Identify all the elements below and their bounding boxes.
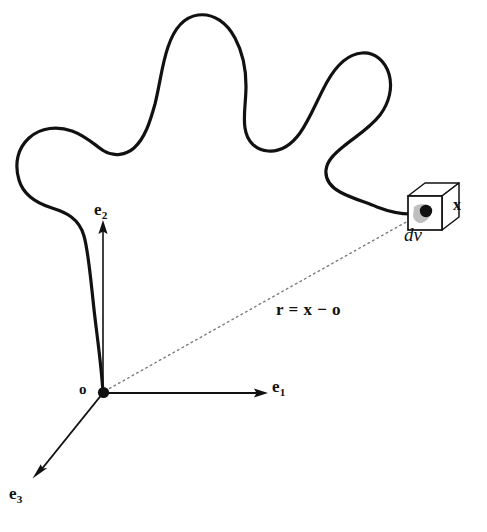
axis-label-e2: e2 (94, 201, 107, 218)
axis-label-e3-symbol: e (9, 484, 17, 503)
axis-label-e2-subscript: 2 (102, 209, 108, 221)
axis-label-e1-subscript: 1 (280, 386, 286, 398)
axis-label-e3: e3 (9, 485, 22, 502)
point-x-label: x (453, 197, 461, 213)
diagram-canvas (0, 0, 487, 532)
position-vector-figure: e1 e2 e3 o x dv r = x − o (0, 0, 487, 532)
position-vector-r-dotted-line (105, 212, 424, 391)
axis-label-e3-subscript: 3 (17, 493, 23, 505)
axis-e1 (103, 388, 268, 397)
axis-e3-shaft (41, 393, 103, 470)
material-point-x-marker (420, 205, 432, 217)
volume-element-label: dv (404, 225, 422, 244)
axis-e3-arrowhead (33, 464, 48, 478)
origin-label: o (79, 382, 87, 397)
axis-e3 (33, 393, 104, 479)
origin-point-marker (98, 387, 109, 398)
axis-label-e2-symbol: e (94, 200, 102, 219)
continuum-body-outline (17, 15, 411, 393)
volume-element-cube (408, 183, 459, 230)
axis-label-e1-symbol: e (272, 377, 280, 396)
axis-label-e1: e1 (272, 378, 285, 395)
position-vector-label: r = x − o (276, 301, 341, 318)
